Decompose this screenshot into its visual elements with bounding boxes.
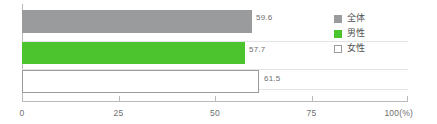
legend-item-female: 女性 (334, 42, 365, 55)
legend-swatch-icon (334, 45, 342, 53)
legend-swatch-icon (334, 30, 342, 38)
x-tick-0 (22, 96, 23, 102)
x-tick-75 (312, 96, 313, 102)
value-label-female: 61.5 (264, 74, 280, 84)
x-tick-label-25: 25 (114, 108, 124, 118)
bar-female (22, 70, 259, 93)
legend-item-male: 男性 (334, 27, 365, 40)
x-tick-label-75: 75 (307, 108, 317, 118)
bar-male (22, 42, 245, 64)
x-tick-label-100: 100(%) (384, 108, 413, 118)
legend-label-female: 女性 (347, 43, 365, 54)
value-label-male: 57.7 (249, 45, 265, 55)
legend: 全体 男性 女性 (334, 12, 365, 57)
legend-label-total: 全体 (347, 13, 365, 24)
legend-swatch-icon (334, 15, 342, 23)
legend-item-total: 全体 (334, 12, 365, 25)
x-tick-50 (215, 96, 216, 102)
bar-chart: 0 25 50 75 100(%) 59.6 57.7 61.5 全体 男性 女… (0, 0, 437, 124)
x-tick-label-0: 0 (20, 108, 25, 118)
x-tick-label-50: 50 (210, 108, 220, 118)
bar-total (22, 10, 252, 33)
legend-label-male: 男性 (347, 28, 365, 39)
x-tick-25 (119, 96, 120, 102)
value-label-total: 59.6 (256, 13, 272, 23)
x-tick-100 (407, 96, 408, 102)
